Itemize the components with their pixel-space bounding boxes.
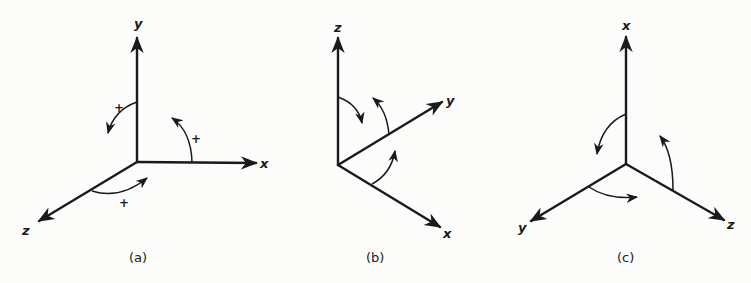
panel-a-plus-sign-2: + (191, 132, 201, 146)
panel-c-x-label: x (621, 18, 631, 33)
panel-b: z y x (b) (333, 20, 455, 265)
panel-b-x-axis (338, 165, 440, 227)
panel-a-z-label: z (21, 223, 30, 238)
panel-c-rotation-arrow-3 (589, 187, 637, 198)
panel-a-y-label: y (134, 16, 143, 31)
panel-c-y-axis (531, 164, 626, 221)
panel-b-y-axis (338, 102, 442, 165)
panel-c-z-label: z (726, 217, 735, 232)
panel-b-rotation-arrow-2 (373, 98, 389, 135)
panel-a-plus-sign-1: + (114, 101, 124, 115)
panel-b-z-label: z (333, 20, 342, 35)
panel-c: x y z (c) (518, 18, 735, 265)
panel-b-x-label: x (442, 226, 452, 241)
panel-b-rotation-arrow-3 (372, 151, 395, 184)
panel-a-rotation-arrow-2 (172, 118, 192, 162)
panel-b-rotation-arrow-1 (338, 97, 362, 123)
panel-c-z-axis (626, 164, 724, 220)
panel-a: y x z + + + (a) (21, 16, 269, 265)
panel-b-caption: (b) (366, 250, 384, 265)
panel-a-x-axis (137, 162, 256, 163)
panel-a-plus-sign-3: + (119, 196, 129, 210)
panel-b-y-label: y (446, 93, 455, 108)
panel-c-y-label: y (518, 220, 527, 235)
coordinate-systems-figure: y x z + + + (a) z y x (b) (0, 0, 751, 283)
panel-a-rotation-arrow-3 (92, 178, 147, 194)
figure-canvas: y x z + + + (a) z y x (b) (0, 0, 751, 283)
panel-a-caption: (a) (129, 250, 147, 265)
panel-c-caption: (c) (617, 250, 634, 265)
panel-c-rotation-arrow-2 (660, 136, 673, 190)
panel-a-x-label: x (259, 156, 269, 171)
panel-c-rotation-arrow-1 (597, 114, 626, 154)
